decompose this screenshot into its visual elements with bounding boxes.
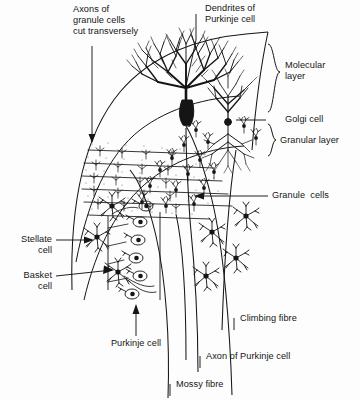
stellate-cell bbox=[84, 192, 125, 252]
cerebellum-diagram: Axons of granule cells cut transversely … bbox=[0, 0, 360, 401]
parallel-fibre-band bbox=[82, 142, 232, 219]
purkinje-axon bbox=[186, 128, 198, 372]
label-climbing-fibre: Climbing fibre bbox=[240, 313, 297, 324]
label-stellate-cell: Stellate cell bbox=[4, 234, 52, 256]
label-molecular-layer: Molecular layer bbox=[285, 60, 325, 82]
label-golgi-cell: Golgi cell bbox=[285, 114, 323, 125]
label-axons-of-granule-cells: Axons of granule cells cut transversely bbox=[73, 4, 138, 38]
label-purkinje-cell: Purkinje cell bbox=[103, 338, 169, 349]
granule-cells bbox=[137, 117, 261, 214]
label-granule-cells: Granule cells bbox=[272, 190, 329, 201]
label-granular-layer: Granular layer bbox=[280, 135, 339, 146]
layer-brackets bbox=[268, 44, 280, 156]
golgi-cell bbox=[201, 69, 257, 173]
label-axon-of-purkinje-cell: Axon of Purkinje cell bbox=[206, 351, 290, 362]
folium-outline bbox=[72, 32, 268, 290]
label-dendrites-of-purkinje-cell: Dendrites of Purkinje cell bbox=[205, 3, 255, 25]
purkinje-dendritic-tree bbox=[127, 28, 243, 126]
label-basket-cell: Basket cell bbox=[4, 270, 52, 292]
label-mossy-fibre: Mossy fibre bbox=[176, 379, 224, 390]
